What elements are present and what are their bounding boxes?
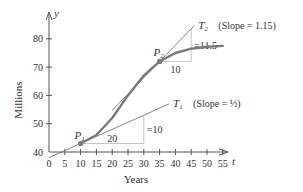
x-tick-label: 35	[155, 158, 165, 169]
point-label: P1	[74, 129, 85, 143]
y-tick-label: 40	[33, 147, 43, 158]
point-label: P2	[153, 46, 165, 60]
x-tick-label: 5	[62, 158, 67, 169]
x-tick-label: 45	[186, 158, 196, 169]
tangent-label: T1	[173, 97, 183, 111]
y-axis-label: Millions	[12, 81, 24, 118]
y-tick-label: 60	[33, 90, 43, 101]
x-tick-label: 40	[170, 158, 180, 169]
y-tick-label: 80	[33, 33, 43, 44]
x-tick-label: 30	[139, 158, 149, 169]
x-tick-label: 25	[123, 158, 133, 169]
y-axis-variable: y	[53, 7, 59, 19]
x-tick-label: 20	[107, 158, 117, 169]
y-tick-label: 70	[33, 62, 43, 73]
rise-label: =10	[147, 124, 163, 135]
x-tick-label: 50	[202, 158, 212, 169]
run-label: 10	[170, 64, 180, 75]
x-tick-label: 55	[218, 158, 228, 169]
plot-area: 05101520253035404550554050607080 20=10T1…	[0, 0, 303, 192]
tangent-label: T2	[198, 19, 208, 33]
x-tick-label: 0	[47, 158, 52, 169]
tangent-slope-chart: 05101520253035404550554050607080 20=10T1…	[0, 0, 303, 192]
slope-annotation: (Slope = ½)	[193, 98, 241, 110]
x-axis-variable: t	[232, 155, 236, 167]
run-label: 20	[107, 133, 117, 144]
x-tick-label: 10	[76, 158, 86, 169]
x-tick-label: 15	[91, 158, 101, 169]
y-tick-label: 50	[33, 118, 43, 129]
slope-annotation: (Slope = 1.15)	[218, 20, 276, 32]
x-axis-label: Years	[124, 173, 149, 185]
